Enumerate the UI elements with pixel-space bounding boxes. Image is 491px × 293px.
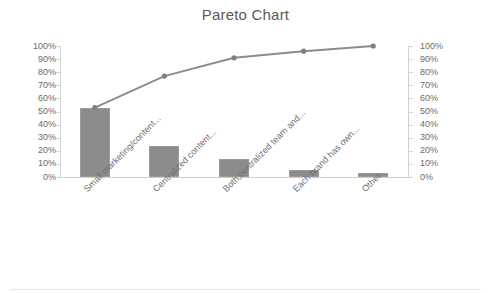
y-tick-mark-left bbox=[56, 164, 60, 165]
y-tick-mark-right bbox=[409, 138, 413, 139]
y-tick-label-left: 100% bbox=[4, 41, 56, 52]
y-tick-mark-right bbox=[409, 177, 413, 178]
y-tick-mark-left bbox=[56, 125, 60, 126]
y-tick-label-right: 70% bbox=[414, 80, 466, 91]
y-axis-right-labels: 0%10%20%30%40%50%60%70%80%90%100% bbox=[414, 46, 466, 177]
y-tick-mark-left bbox=[56, 85, 60, 86]
y-tick-label-left: 80% bbox=[4, 67, 56, 78]
cumulative-marker-1 bbox=[162, 74, 167, 79]
y-tick-label-right: 80% bbox=[414, 67, 466, 78]
y-tick-label-left: 50% bbox=[4, 106, 56, 117]
cumulative-marker-0 bbox=[92, 105, 97, 110]
y-tick-mark-right bbox=[409, 72, 413, 73]
y-tick-mark-left bbox=[56, 46, 60, 47]
y-tick-mark-left bbox=[56, 72, 60, 73]
cumulative-markers bbox=[92, 43, 376, 110]
y-tick-label-right: 10% bbox=[414, 158, 466, 169]
y-tick-label-left: 40% bbox=[4, 119, 56, 130]
y-tick-mark-right bbox=[409, 98, 413, 99]
y-tick-mark-right bbox=[409, 85, 413, 86]
y-tick-label-left: 20% bbox=[4, 145, 56, 156]
y-tick-mark-left bbox=[56, 98, 60, 99]
y-tick-label-right: 40% bbox=[414, 119, 466, 130]
y-tick-mark-left bbox=[56, 112, 60, 113]
y-tick-mark-left bbox=[56, 138, 60, 139]
y-tick-label-right: 90% bbox=[414, 54, 466, 65]
pareto-chart-container: Pareto Chart 0%10%20%30%40%50%60%70%80%9… bbox=[0, 0, 491, 293]
x-axis-category-labels: Small marketing/content...Centralized co… bbox=[0, 178, 491, 273]
footer-divider bbox=[10, 289, 481, 290]
y-tick-mark-right bbox=[409, 125, 413, 126]
y-tick-label-left: 60% bbox=[4, 93, 56, 104]
y-tick-label-left: 90% bbox=[4, 54, 56, 65]
y-tick-mark-right bbox=[409, 59, 413, 60]
cumulative-marker-4 bbox=[371, 43, 376, 48]
y-tick-label-right: 100% bbox=[414, 41, 466, 52]
y-tick-label-left: 70% bbox=[4, 80, 56, 91]
y-tick-mark-right bbox=[409, 164, 413, 165]
cumulative-marker-2 bbox=[231, 55, 236, 60]
y-tick-mark-right bbox=[409, 112, 413, 113]
y-tick-label-left: 30% bbox=[4, 132, 56, 143]
y-tick-label-right: 50% bbox=[414, 106, 466, 117]
y-tick-mark-left bbox=[56, 177, 60, 178]
y-tick-label-left: 10% bbox=[4, 158, 56, 169]
chart-title: Pareto Chart bbox=[0, 6, 491, 23]
y-tick-mark-left bbox=[56, 151, 60, 152]
cumulative-marker-3 bbox=[301, 49, 306, 54]
y-tick-mark-right bbox=[409, 46, 413, 47]
y-axis-left-labels: 0%10%20%30%40%50%60%70%80%90%100% bbox=[4, 46, 56, 177]
y-tick-label-right: 60% bbox=[414, 93, 466, 104]
y-tick-mark-left bbox=[56, 59, 60, 60]
y-tick-label-right: 30% bbox=[414, 132, 466, 143]
y-tick-mark-right bbox=[409, 151, 413, 152]
y-tick-label-right: 20% bbox=[414, 145, 466, 156]
